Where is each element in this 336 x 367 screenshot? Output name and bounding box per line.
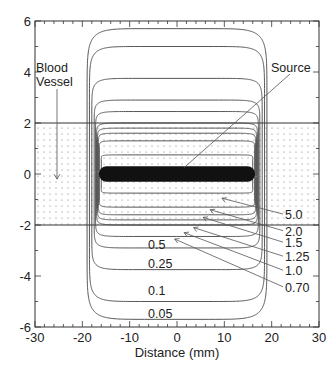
y-tick-label: 4	[24, 65, 31, 80]
source-label: Source	[271, 61, 311, 75]
contour-label-1.0: 1.0	[285, 264, 302, 278]
x-tick-label: -20	[73, 330, 92, 345]
y-tick-label: 2	[24, 116, 31, 131]
x-tick-label: 20	[264, 330, 278, 345]
contour-label-0.1: 0.1	[148, 284, 165, 298]
x-tick-label: 0	[173, 330, 180, 345]
contour-label-5.0: 5.0	[285, 208, 302, 222]
y-tick-label: 0	[24, 167, 31, 182]
y-tick-label: -2	[19, 218, 31, 233]
pointer-1.25	[194, 228, 283, 257]
contour-label-1.5: 1.5	[285, 236, 302, 250]
radiation-source	[99, 166, 255, 181]
isodose-chart: -30-20-1001020306420-2-4-6 0.50.250.10.0…	[0, 0, 336, 367]
x-axis-label: Distance (mm)	[135, 345, 220, 360]
x-tick-label: -10	[120, 330, 139, 345]
contour-label-1.25: 1.25	[285, 250, 309, 264]
y-tick-label: -6	[19, 320, 31, 335]
y-tick-label: 6	[24, 14, 31, 29]
contour-label-0.5: 0.5	[148, 238, 165, 252]
contour-label-0.70: 0.70	[285, 281, 309, 295]
contour-label-0.25: 0.25	[148, 257, 172, 271]
blood-vessel-label-1: Blood	[36, 61, 68, 75]
blood-vessel-label-2: Vessel	[36, 75, 73, 89]
y-tick-label: -4	[19, 269, 31, 284]
x-tick-label: 30	[312, 330, 326, 345]
x-tick-label: 10	[217, 330, 231, 345]
contour-label-0.05: 0.05	[148, 307, 172, 321]
source-bar	[99, 166, 255, 181]
